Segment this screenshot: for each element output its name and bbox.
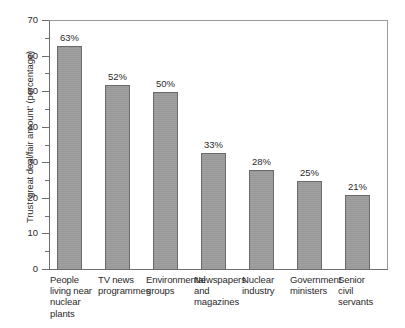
y-tick-label: 40 [14,122,38,132]
y-tick-major [42,162,49,163]
bar [153,92,178,270]
y-tick-label-wrap: 50 [14,86,38,96]
y-tick-label: 70 [14,15,38,25]
x-category-label: Governmentministers [290,274,342,296]
y-tick-major [42,269,49,270]
y-tick-major [42,198,49,199]
x-category-label-line: programmes [98,285,150,296]
y-tick-label: 50 [14,86,38,96]
x-category-label: Nuclearindustry [242,274,294,296]
x-category-label-line: Senior [338,274,390,285]
bar [345,195,370,270]
y-tick-label: 0 [14,264,38,274]
bar [297,181,322,270]
x-category-label: Environmentalgroups [146,274,198,296]
x-category-label-line: groups [146,285,198,296]
x-category-label-line: industry [242,285,294,296]
y-tick-major [42,56,49,57]
y-tick-label: 10 [14,228,38,238]
x-category-label-line: Newspapers [194,274,246,285]
y-tick-major [42,20,49,21]
y-tick-label-wrap: 20 [14,193,38,203]
x-category-label-line: living near [50,285,102,296]
x-category-label-line: civil [338,285,390,296]
x-category-label-line: Nuclear [242,274,294,285]
bar-value-label: 33% [194,140,233,150]
y-tick-label: 30 [14,157,38,167]
x-category-label-line: and [194,285,246,296]
y-tick-major [42,91,49,92]
x-category-label-line: People [50,274,102,285]
x-category-label: Newspapersandmagazines [194,274,246,308]
bar-value-label: 28% [242,157,281,167]
x-category-label-line: servants [338,296,390,307]
y-tick-label-wrap: 10 [14,228,38,238]
x-category-label: TV newsprogrammes [98,274,150,296]
y-tick-label-wrap: 40 [14,122,38,132]
x-category-label: Peopleliving nearnuclearplants [50,274,102,319]
y-tick-label-wrap: 70 [14,15,38,25]
bar-value-label: 21% [338,182,377,192]
bar-value-label: 25% [290,168,329,178]
x-category-label: Seniorcivilservants [338,274,390,308]
y-tick-label: 60 [14,51,38,61]
x-category-label-line: ministers [290,285,342,296]
y-tick-label-wrap: 0 [14,264,38,274]
y-tick-major [42,233,49,234]
y-tick-label: 20 [14,193,38,203]
y-tick-label-wrap: 30 [14,157,38,167]
bar [57,46,82,270]
bar-value-label: 63% [50,33,89,43]
bar-value-label: 50% [146,79,185,89]
y-tick-label-wrap: 60 [14,51,38,61]
x-category-label-line: nuclear [50,296,102,307]
y-tick-major [42,127,49,128]
x-category-label-line: plants [50,308,102,319]
bar [249,170,274,270]
x-category-label-line: Government [290,274,342,285]
bar-value-label: 52% [98,72,137,82]
x-category-label-line: Environmental [146,274,198,285]
bar [105,85,130,270]
x-category-label-line: magazines [194,296,246,307]
bar-chart: Trust 'great deal/fair amount' (percenta… [0,0,405,328]
bar [201,153,226,270]
x-category-label-line: TV news [98,274,150,285]
